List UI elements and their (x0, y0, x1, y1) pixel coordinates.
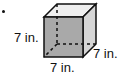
cube-front-face (44, 17, 83, 57)
height-label: 7 in. (14, 31, 39, 44)
width-label: 7 in. (50, 61, 75, 74)
depth-label: 7 in. (93, 47, 118, 60)
